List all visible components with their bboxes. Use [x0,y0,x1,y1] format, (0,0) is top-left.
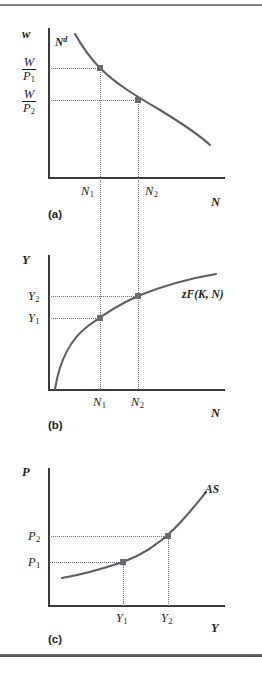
panel-c-xtick-y2: Y2 [161,612,173,625]
panel-a-caption: (a) [48,209,62,221]
labor-demand-curve [0,0,262,230]
panel-b-xtick-n2: N2 [131,396,144,409]
aggregate-supply-curve [0,430,262,676]
panel-c-caption: (c) [48,634,62,646]
panel-a-xtick-n2: N2 [145,185,158,198]
panel-c-point-2-marker [165,533,171,539]
panel-b-xtick-n1: N1 [93,396,106,409]
economics-figure: w N Nd W P1 W P2 N1 N2 (a) [0,0,262,676]
aggregate-supply-label: AS [205,484,219,496]
production-function-label: zF(K, N) [182,289,224,301]
panel-c-xtick-y1: Y1 [116,612,128,625]
panel-a-xtick-n1: N1 [81,185,94,198]
panel-b-point-2-marker [135,293,141,299]
panel-c-point-1-marker [120,559,126,565]
panel-b-point-1-marker [97,315,103,321]
